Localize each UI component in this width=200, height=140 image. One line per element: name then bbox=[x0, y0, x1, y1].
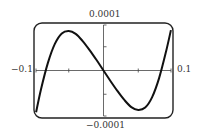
x-min-label: −0.1 bbox=[11, 64, 33, 74]
y-max-label: 0.0001 bbox=[89, 9, 121, 19]
x-max-label: 0.1 bbox=[177, 64, 191, 74]
y-min-label: −0.0001 bbox=[86, 120, 125, 130]
